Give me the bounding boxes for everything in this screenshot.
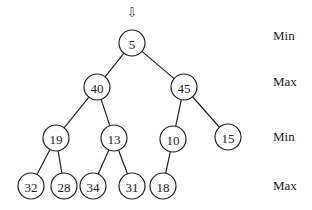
- tree-edge: [193, 97, 220, 127]
- heap-node: 15: [215, 124, 241, 150]
- tree-edge: [64, 97, 89, 128]
- node-value: 19: [50, 132, 63, 147]
- heap-node: 5: [119, 30, 145, 56]
- node-value: 5: [129, 37, 136, 52]
- tree-edge: [58, 151, 62, 173]
- heap-node: 31: [119, 173, 145, 199]
- node-value: 18: [157, 180, 170, 195]
- level-labels: MinMaxMinMax: [273, 28, 297, 193]
- node-value: 32: [25, 180, 38, 195]
- heap-node: 13: [101, 125, 127, 151]
- node-value: 15: [222, 131, 235, 146]
- heap-node: 10: [160, 126, 186, 152]
- tree-edge: [142, 51, 174, 78]
- level-label-min: Min: [273, 28, 295, 43]
- node-value: 13: [108, 132, 121, 147]
- node-value: 10: [167, 133, 180, 148]
- edges-layer: [37, 51, 219, 174]
- heap-node: 34: [80, 173, 106, 199]
- level-label-max: Max: [273, 178, 297, 193]
- node-value: 31: [126, 180, 139, 195]
- node-value: 34: [87, 180, 101, 195]
- tree-edge: [98, 150, 109, 174]
- node-value: 28: [58, 180, 71, 195]
- level-label-max: Max: [273, 74, 297, 89]
- tree-edge: [176, 100, 182, 127]
- node-value: 45: [178, 81, 191, 96]
- tree-edge: [101, 99, 110, 125]
- tree-edge: [119, 150, 128, 174]
- heap-node: 32: [18, 173, 44, 199]
- heap-node: 45: [171, 74, 197, 100]
- heap-node: 28: [51, 173, 77, 199]
- down-arrow-icon: ⇩: [127, 5, 138, 20]
- min-max-heap-diagram: 54045191310153228343118 MinMaxMinMax ⇩: [0, 0, 312, 210]
- tree-edge: [166, 152, 171, 174]
- tree-edge: [105, 53, 124, 77]
- tree-edge: [37, 150, 50, 175]
- heap-node: 40: [84, 74, 110, 100]
- node-value: 40: [91, 81, 104, 96]
- heap-node: 19: [43, 125, 69, 151]
- heap-node: 18: [150, 173, 176, 199]
- level-label-min: Min: [273, 129, 295, 144]
